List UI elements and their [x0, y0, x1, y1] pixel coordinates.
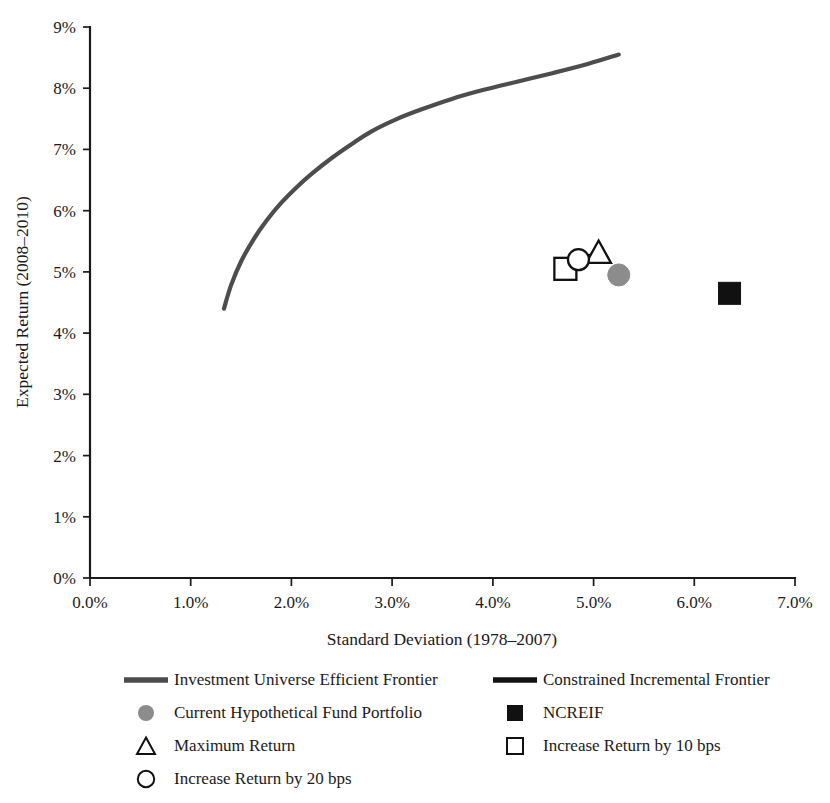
x-tick-label-1: 1.0% — [173, 593, 208, 612]
x-tick-label-7: 7.0% — [777, 593, 812, 612]
x-tick-label-0: 0.0% — [72, 593, 107, 612]
legend-label: Increase Return by 20 bps — [174, 770, 352, 787]
y-axis-title: Expected Return (2008–2010) — [12, 196, 32, 408]
y-tick-label-2: 2% — [53, 447, 76, 466]
axis-frame — [90, 27, 795, 578]
y-axis-ticks: 0% 1% 2% 3% 4% 5% 6% 7% 8% 9% — [53, 18, 90, 588]
y-tick-label-8: 8% — [53, 79, 76, 98]
y-tick-label-7: 7% — [53, 140, 76, 159]
legend-label: Increase Return by 10 bps — [543, 737, 721, 754]
legend-item-investment-universe-efficient-frontier: Investment Universe Efficient Frontier — [118, 664, 498, 695]
legend-item-constrained-incremental-frontier: Constrained Incremental Frontier — [487, 664, 830, 695]
legend-open-square-icon — [487, 732, 543, 760]
data-markers — [554, 241, 740, 305]
x-tick-label-2: 2.0% — [274, 593, 309, 612]
chart-plot-area: 0% 1% 2% 3% 4% 5% 6% 7% 8% 9% 0.0% 1.0% … — [0, 0, 830, 660]
x-axis-ticks: 0.0% 1.0% 2.0% 3.0% 4.0% 5.0% 6.0% 7.0% — [72, 578, 812, 612]
x-tick-label-5: 5.0% — [576, 593, 611, 612]
legend-line-black-icon — [487, 666, 543, 694]
legend-label: Investment Universe Efficient Frontier — [174, 671, 438, 688]
legend-item-current-hypothetical-fund-portfolio: Current Hypothetical Fund Portfolio — [118, 697, 498, 728]
legend-item-maximum-return: Maximum Return — [118, 730, 498, 761]
data-marker-increase-return-by-20-bps — [568, 249, 589, 270]
y-tick-label-3: 3% — [53, 385, 76, 404]
y-tick-label-6: 6% — [53, 202, 76, 221]
y-tick-label-9: 9% — [53, 18, 76, 37]
efficient-frontier-figure: 0% 1% 2% 3% 4% 5% 6% 7% 8% 9% 0.0% 1.0% … — [0, 0, 830, 803]
legend-item-increase-return-by-20-bps: Increase Return by 20 bps — [118, 763, 498, 794]
y-tick-label-0: 0% — [53, 569, 76, 588]
legend-label: NCREIF — [543, 704, 603, 721]
y-tick-label-5: 5% — [53, 263, 76, 282]
legend-label: Maximum Return — [174, 737, 295, 754]
legend-line-gray-icon — [118, 666, 174, 694]
y-tick-label-1: 1% — [53, 508, 76, 527]
x-tick-label-4: 4.0% — [475, 593, 510, 612]
y-tick-label-4: 4% — [53, 324, 76, 343]
data-marker-ncreif — [719, 282, 741, 304]
data-marker-current-hypothetical-fund-portfolio — [608, 264, 630, 286]
x-axis-title: Standard Deviation (1978–2007) — [327, 629, 558, 649]
axis-lines — [90, 27, 795, 578]
chart-legend: Investment Universe Efficient Frontier C… — [0, 660, 830, 803]
legend-filled-square-black-icon — [487, 699, 543, 727]
legend-label: Current Hypothetical Fund Portfolio — [174, 704, 422, 721]
legend-open-circle-icon — [118, 765, 174, 793]
legend-filled-circle-gray-icon — [118, 699, 174, 727]
legend-item-increase-return-by-10-bps: Increase Return by 10 bps — [487, 730, 830, 761]
x-tick-label-3: 3.0% — [374, 593, 409, 612]
legend-item-ncreif: NCREIF — [487, 697, 830, 728]
legend-label: Constrained Incremental Frontier — [543, 671, 770, 688]
legend-open-triangle-icon — [118, 732, 174, 760]
x-tick-label-6: 6.0% — [677, 593, 712, 612]
